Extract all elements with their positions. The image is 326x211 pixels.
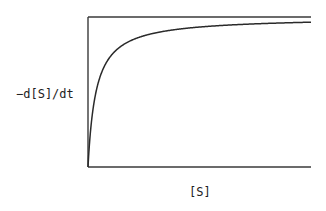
y-axis-label: −d[S]/dt xyxy=(16,87,74,101)
rate-vs-substrate-chart: −d[S]/dt [S] xyxy=(0,0,326,211)
x-axis-label: [S] xyxy=(189,185,211,199)
plot-frame xyxy=(88,17,311,167)
michaelis-menten-curve xyxy=(88,22,311,167)
